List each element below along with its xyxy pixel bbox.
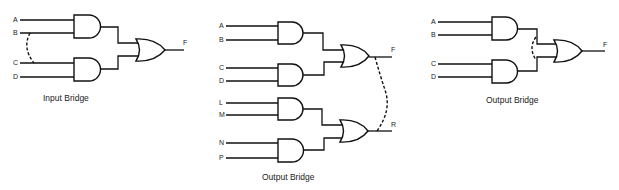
input-label-a: A xyxy=(219,22,224,29)
input-label-c: C xyxy=(219,64,224,71)
output-bridge-dashed xyxy=(375,57,387,131)
input-label-b: B xyxy=(13,29,18,36)
and-gate-1 xyxy=(492,17,518,40)
input-label-p: P xyxy=(219,154,224,161)
output-label-r: R xyxy=(391,121,396,128)
caption-output-bridge-1: Output Bridge xyxy=(262,172,315,182)
wire-and2-or xyxy=(517,57,558,71)
output-label-f: F xyxy=(183,39,187,46)
diagram-output-bridge-fr: A B C D L M N P F R Output Bridge xyxy=(219,22,396,182)
or-gate-1 xyxy=(341,45,369,67)
wire-and2-or1 xyxy=(303,62,346,75)
and-gate-2 xyxy=(74,58,100,81)
gate-output-bridge-dashed xyxy=(532,37,536,60)
diagram-output-bridge-gates: A B C D F Output Bridge xyxy=(431,17,607,105)
input-label-c: C xyxy=(431,60,436,67)
wire-and2-or xyxy=(100,56,141,69)
and-gate-2 xyxy=(492,60,518,83)
input-label-a: A xyxy=(431,18,436,25)
input-label-b: B xyxy=(431,31,436,38)
output-label-f: F xyxy=(391,46,395,53)
output-label-f: F xyxy=(603,41,607,48)
or-gate xyxy=(136,39,165,61)
input-bridge-dashed xyxy=(27,33,34,63)
wire-and4-or2 xyxy=(303,138,345,150)
input-label-d: D xyxy=(13,73,18,80)
input-label-n: N xyxy=(219,139,224,146)
diagram-input-bridge: A B C D F Input Bridge xyxy=(13,15,187,103)
or-gate-2 xyxy=(340,120,368,142)
input-label-b: B xyxy=(219,36,224,43)
wire-and1-or xyxy=(100,27,141,43)
and-gate-1 xyxy=(278,22,303,44)
wire-and1-or xyxy=(517,29,558,44)
wire-and1-or1 xyxy=(303,33,346,50)
input-label-m: M xyxy=(219,111,225,118)
and-gate-3 xyxy=(278,98,303,120)
input-label-d: D xyxy=(431,73,436,80)
input-label-l: L xyxy=(219,99,223,106)
logic-bridge-diagrams: A B C D F Input Bridge A B C D L M N P xyxy=(0,0,619,190)
or-gate xyxy=(554,40,582,62)
and-gate-1 xyxy=(74,15,100,38)
input-label-d: D xyxy=(219,77,224,84)
caption-input-bridge: Input Bridge xyxy=(43,93,89,103)
caption-output-bridge-2: Output Bridge xyxy=(486,95,539,105)
and-gate-2 xyxy=(278,64,303,86)
and-gate-4 xyxy=(278,139,304,162)
wire-and3-or2 xyxy=(303,109,345,125)
input-label-a: A xyxy=(13,16,18,23)
input-label-c: C xyxy=(13,59,18,66)
